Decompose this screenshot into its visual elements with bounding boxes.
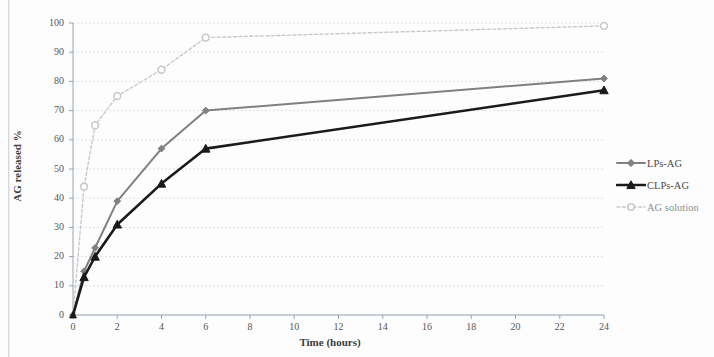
x-tick-label: 12 xyxy=(328,321,350,332)
x-tick-label: 8 xyxy=(239,321,261,332)
x-tick-label: 6 xyxy=(195,321,217,332)
release-profile-plot xyxy=(0,0,714,357)
y-tick-label: 10 xyxy=(40,279,64,290)
y-tick-label: 90 xyxy=(40,46,64,57)
x-axis-title: Time (hours) xyxy=(0,336,660,348)
y-axis-title: AG released % xyxy=(11,116,23,216)
y-tick-label: 30 xyxy=(40,221,64,232)
y-tick-label: 0 xyxy=(40,309,64,320)
legend-item-lps-ag[interactable]: LPs-AG xyxy=(616,152,714,174)
legend-label: LPs-AG xyxy=(647,158,682,169)
gridlines xyxy=(73,23,604,315)
y-tick-label: 40 xyxy=(40,192,64,203)
x-tick-label: 24 xyxy=(593,321,615,332)
data-point-marker xyxy=(92,122,99,129)
data-point-marker xyxy=(114,93,121,100)
y-tick-label: 20 xyxy=(40,250,64,261)
x-tick-label: 18 xyxy=(460,321,482,332)
y-tick-label: 60 xyxy=(40,133,64,144)
x-tick-label: 14 xyxy=(372,321,394,332)
y-tick-label: 80 xyxy=(40,75,64,86)
x-tick-label: 4 xyxy=(151,321,173,332)
data-point-marker xyxy=(601,75,608,82)
series-line-ag-solution xyxy=(73,26,604,315)
data-point-marker xyxy=(627,159,634,166)
data-point-marker xyxy=(158,66,165,73)
data-point-marker xyxy=(601,23,608,30)
series-line-lps-ag xyxy=(73,79,604,316)
x-tick-marks xyxy=(73,315,604,319)
x-tick-label: 2 xyxy=(106,321,128,332)
x-tick-label: 10 xyxy=(283,321,305,332)
legend-item-ag-solution[interactable]: AG solution xyxy=(616,196,714,218)
chart-legend: LPs-AGCLPs-AGAG solution xyxy=(616,152,714,218)
x-tick-label: 0 xyxy=(62,321,84,332)
legend-marker-icon xyxy=(616,156,646,170)
legend-marker-icon xyxy=(616,200,646,214)
x-tick-label: 16 xyxy=(416,321,438,332)
data-point-marker xyxy=(202,34,209,41)
series-line-clps-ag xyxy=(73,90,604,315)
legend-marker-icon xyxy=(616,178,646,192)
data-point-marker xyxy=(92,244,99,251)
data-point-marker xyxy=(81,183,88,190)
legend-label: CLPs-AG xyxy=(647,180,689,191)
data-series-layer xyxy=(70,23,609,318)
y-tick-label: 100 xyxy=(40,17,64,28)
x-tick-label: 22 xyxy=(549,321,571,332)
y-tick-label: 50 xyxy=(40,163,64,174)
y-tick-marks xyxy=(69,23,73,315)
chart-figure: 0102030405060708090100 02468101214161820… xyxy=(0,0,714,357)
y-tick-label: 70 xyxy=(40,104,64,115)
legend-item-clps-ag[interactable]: CLPs-AG xyxy=(616,174,714,196)
legend-label: AG solution xyxy=(647,202,699,213)
x-tick-label: 20 xyxy=(505,321,527,332)
data-point-marker xyxy=(628,204,634,210)
